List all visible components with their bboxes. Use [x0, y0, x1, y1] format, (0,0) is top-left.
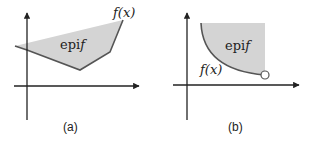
epigraph-label-b: epif: [225, 38, 252, 53]
panel-a: epif f(x) (a): [14, 5, 139, 134]
caption-a: (a): [63, 120, 78, 134]
panel-b: epif f(x) (b): [173, 13, 299, 134]
epigraph-figure: epif f(x) (a) epif f(x) (b): [0, 0, 309, 148]
function-label-b: f(x): [199, 62, 222, 77]
function-label-a: f(x): [112, 5, 135, 20]
epigraph-label-a: epif: [60, 37, 87, 52]
open-endpoint-marker: [261, 71, 269, 79]
caption-b: (b): [228, 120, 243, 134]
